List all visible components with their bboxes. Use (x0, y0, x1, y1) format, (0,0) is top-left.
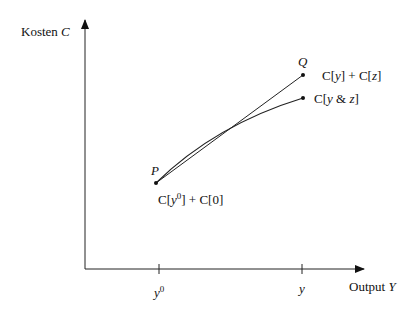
point-p-annotation: C[y0] + C[0] (158, 192, 223, 206)
tick-label-y0-sup: 0 (160, 284, 165, 294)
tick-label-y0: y0 (154, 285, 164, 299)
cost-diagram (0, 0, 416, 311)
y-axis-label: Kosten C (21, 25, 70, 38)
x-axis-label-var: Y (388, 279, 395, 294)
point-r (301, 96, 305, 100)
x-axis-label-text: Output (349, 279, 388, 294)
point-p-label: P (151, 164, 159, 177)
point-r-annotation: C[y & z] (314, 92, 359, 105)
tick-label-y-base: y (299, 281, 305, 296)
tick-label-y: y (299, 282, 305, 295)
y-axis-label-text: Kosten (21, 24, 61, 39)
joint-cost-curve (156, 98, 303, 183)
point-q-label: Q (298, 55, 307, 68)
point-p (154, 181, 158, 185)
point-q-annotation: C[y] + C[z] (322, 69, 381, 82)
point-q (301, 73, 305, 77)
y-axis-label-var: C (61, 24, 70, 39)
x-axis-label: Output Y (349, 280, 396, 293)
